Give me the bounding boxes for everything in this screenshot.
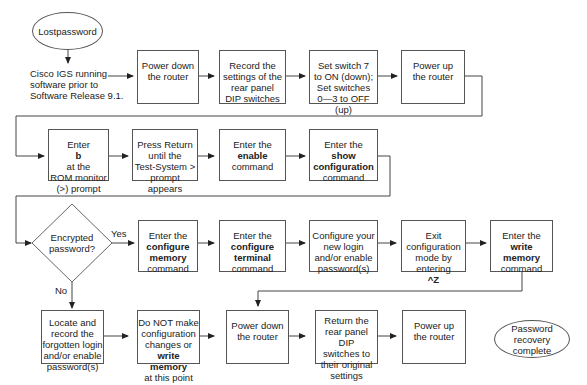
step-line: Enter the (231, 230, 274, 241)
step-line: settings (316, 370, 377, 381)
note-line: Software Release 9.1. (30, 90, 123, 101)
command-keyword: configure (146, 241, 189, 252)
step-line: Press Return (133, 139, 197, 150)
step-line: the router (231, 331, 283, 342)
step-line: Locate and (42, 317, 102, 328)
command-keyword: enable (232, 150, 274, 161)
command-keyword: configuration (313, 161, 374, 172)
step-line: Configure your (312, 230, 374, 241)
step-configure-new-password: Configure yournew loginand/or enablepass… (309, 220, 378, 272)
step-line: Enter the (232, 139, 274, 150)
step-show-configuration: Enter theshowconfigurationcommand (309, 129, 378, 181)
step-power-up-router: Power upthe router (401, 50, 465, 104)
end-terminal-password-recovery-complete: Passwordrecoverycomplete (494, 320, 570, 358)
step-line: command (146, 263, 189, 274)
step-line: rear panel DIP (316, 326, 377, 348)
step-enter-b-rom-monitor: Enter b at theROM monitor(>) prompt (48, 129, 109, 181)
step-power-up-router-2: Power upthe router (402, 310, 466, 364)
step-line: the router (142, 71, 194, 82)
step-line: Enter the (313, 139, 374, 150)
command-keyword: memory (501, 252, 543, 263)
step-line: Enter the (501, 230, 543, 241)
note-line: software prior to (30, 79, 98, 90)
step-line: and/or enable (312, 252, 374, 263)
yes-label: Yes (111, 228, 127, 239)
step-line: command (501, 263, 543, 274)
step-line: the router (413, 71, 454, 82)
step-write-memory: Enter thewritememorycommand (490, 220, 553, 272)
step-line: password(s) (42, 361, 102, 372)
step-line: Enter b at the (50, 139, 106, 172)
step-line: Exit (402, 230, 465, 241)
end-line: complete (511, 345, 553, 356)
step-line: Do NOT make (138, 317, 199, 328)
step-line: Power up (413, 60, 454, 71)
step-power-down-router: Power downthe router (137, 50, 199, 104)
step-line: their original (316, 359, 377, 370)
step-line: rear panel (223, 82, 282, 93)
step-line: command (313, 172, 374, 183)
start-line: password (56, 26, 97, 37)
step-configure-terminal: Enter theconfigureterminalcommand (219, 220, 286, 272)
step-line: record the (42, 328, 102, 339)
command-keyword: write (501, 241, 543, 252)
command-keyword: show (313, 150, 374, 161)
step-line: settings of the (223, 71, 282, 82)
step-line: forgotten login (42, 339, 102, 350)
decision-line: password? (49, 243, 95, 254)
step-line: new login (312, 241, 374, 252)
decision-line: Encrypted (51, 232, 94, 243)
step-line: Set switches (310, 82, 377, 93)
flowchart-canvas: Lostpassword Cisco IGS running software … (0, 0, 587, 385)
step-locate-record-passwords: Locate andrecord theforgotten loginand/o… (41, 310, 104, 364)
step-line: Return the (316, 315, 377, 326)
step-exit-configuration-mode: Exitconfigurationmode by entering^Z (401, 220, 466, 272)
step-line: command (231, 263, 274, 274)
step-record-dip-switches: Record thesettings of therear panelDIP s… (219, 50, 286, 104)
no-label: No (55, 285, 67, 296)
note-line: Cisco IGS running (30, 68, 107, 79)
end-line: recovery (511, 334, 553, 345)
igs-note: Cisco IGS running software prior to Soft… (30, 68, 123, 101)
step-line: Record the (223, 60, 282, 71)
step-press-return: Press Returnuntil theTest-System >prompt… (132, 129, 198, 181)
step-line: ROM monitor (50, 172, 106, 183)
command-keyword: ^Z (402, 274, 465, 285)
step-line: DIP switches (223, 93, 282, 104)
step-line: configuration (138, 328, 199, 339)
step-line: Power down (231, 320, 283, 331)
step-configure-memory: Enter theconfigurememorycommand (138, 220, 198, 272)
step-return-dip-switches: Return therear panel DIPswitches totheir… (315, 310, 378, 364)
command-keyword: terminal (231, 252, 274, 263)
step-line: the router (414, 331, 455, 342)
step-line: and/or enable (42, 350, 102, 361)
step-line: Enter the (146, 230, 189, 241)
step-line: to ON (down); (310, 71, 377, 82)
step-enter-enable: Enter theenablecommand (219, 129, 286, 181)
step-line: mode by entering (402, 252, 465, 274)
step-line: at this point (138, 372, 199, 383)
command-keyword: configure (231, 241, 274, 252)
start-terminal-lost-password: Lostpassword (32, 12, 103, 50)
step-line: (>) prompt (50, 183, 106, 194)
step-line: command (232, 161, 274, 172)
step-line: Test-System > (133, 161, 197, 172)
step-line: configuration (402, 241, 465, 252)
step-line: Power up (414, 320, 455, 331)
step-line: Set switch 7 (310, 60, 377, 71)
step-line: changes or (138, 339, 199, 350)
step-set-switches: Set switch 7to ON (down);Set switches0—3… (309, 50, 378, 104)
step-line: Power down (142, 60, 194, 71)
end-line: Password (511, 323, 553, 334)
step-line: switches to (316, 348, 377, 359)
decision-encrypted-password: Encrypted password? (42, 232, 102, 254)
step-line: until the (133, 150, 197, 161)
step-power-down-router-2: Power downthe router (226, 310, 289, 364)
step-line: password(s) (312, 263, 374, 274)
command-keyword: memory (146, 252, 189, 263)
command-keyword: write memory (138, 350, 199, 372)
step-line: 0—3 to OFF (up) (310, 93, 377, 115)
start-line: Lost (38, 26, 56, 37)
step-line: prompt appears (133, 172, 197, 194)
step-do-not-write-memory: Do NOT makeconfigurationchanges orwrite … (137, 310, 200, 364)
